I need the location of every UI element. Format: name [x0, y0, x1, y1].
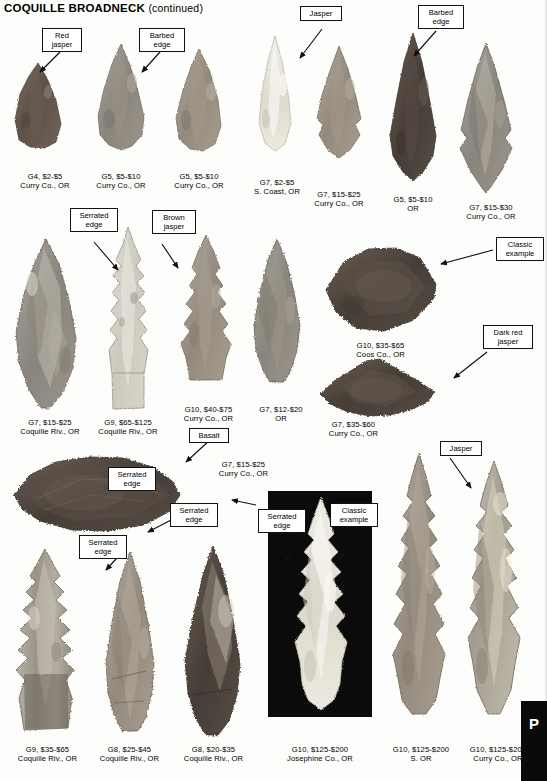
caption-grade-price: G8, $20-$35 [166, 745, 261, 754]
callout-dark-red-jasper: Dark red jasper [483, 325, 533, 349]
callout-serrated-edge-2: Serrated edge [170, 503, 218, 527]
artifact-row1-item7 [455, 42, 517, 195]
callout-line: edge [422, 17, 460, 26]
callout-classic-example-2: Classic example [330, 503, 378, 527]
callout-line: Serrated [112, 470, 152, 479]
callout-line: Jasper [444, 444, 478, 453]
caption-grade-price: G5, $5-$10 [76, 172, 166, 181]
caption-row1-item2: G5, $5-$10 Curry Co., OR [76, 172, 166, 190]
caption-provenance: Josephine Co., OR [270, 754, 370, 763]
callout-line: Serrated [262, 512, 302, 521]
caption-grade-price: G7, $35-$60 [306, 420, 401, 429]
callout-line: Barbed [143, 31, 181, 40]
caption-grade-price: G10, $125-$200 [270, 745, 370, 754]
caption-row1-item3: G5, $5-$10 Curry Co., OR [154, 172, 244, 190]
artifact-row2-item2 [100, 226, 156, 413]
page-title: COQUILLE BROADNECK (continued) [4, 2, 203, 14]
callout-serrated-edge-5: Serrated edge [108, 467, 156, 491]
caption-grade-price: G8, $25-$45 [82, 745, 177, 754]
callout-line: Serrated [74, 211, 114, 220]
caption-row4-item2: G8, $25-$45 Coquille Riv., OR [82, 745, 177, 763]
callout-line: Serrated [174, 506, 214, 515]
artifact-row2-item6 [318, 358, 436, 418]
artifact-row4-item5 [388, 452, 450, 718]
callout-line: Dark red [487, 328, 529, 337]
callout-line: Classic [500, 240, 540, 249]
callout-red-jasper: Red jasper [42, 28, 82, 52]
caption-grade-price: G7, $12-$20 [236, 405, 326, 414]
artifact-row1-item6 [385, 32, 441, 184]
caption-row4-item3: G8, $20-$35 Coquille Riv., OR [166, 745, 261, 763]
artifact-row1-item3 [170, 48, 228, 152]
caption-row4-item4: G10, $125-$200 Josephine Co., OR [270, 745, 370, 763]
caption-provenance: Coquille Riv., OR [78, 427, 178, 436]
caption-provenance: Curry Co., OR [196, 469, 291, 478]
callout-classic-example-1: Classic example [496, 237, 544, 261]
caption-provenance: Coquille Riv., OR [166, 754, 261, 763]
caption-grade-price: G7, $2-$5 [232, 178, 322, 187]
page-thumb-tab: P [521, 701, 547, 781]
catalog-page: COQUILLE BROADNECK (continued) [0, 0, 547, 781]
callout-line: Jasper [304, 9, 338, 18]
callout-line: Red [46, 31, 78, 40]
callout-brown-jasper: Brown jasper [152, 210, 196, 234]
callout-line: edge [112, 479, 152, 488]
artifact-row3-item1 [12, 455, 182, 533]
caption-row2-item5: G10, $35-$65 Coos Co., OR [333, 341, 428, 359]
caption-row1-item7: G7, $15-$30 Curry Co., OR [441, 203, 541, 221]
callout-line: edge [143, 40, 181, 49]
caption-row2-item6: G7, $35-$60 Curry Co., OR [306, 420, 401, 438]
callout-barbed-edge-2: Barbed edge [418, 5, 464, 29]
caption-provenance: Coquille Riv., OR [82, 754, 177, 763]
page-title-text: COQUILLE BROADNECK [4, 2, 145, 14]
callout-serrated-edge-1: Serrated edge [70, 208, 118, 232]
artifact-row2-item3 [176, 234, 236, 384]
callout-line: jasper [487, 337, 529, 346]
callout-line: edge [74, 220, 114, 229]
callout-line: edge [83, 547, 123, 556]
caption-grade-price: G5, $5-$10 [154, 172, 244, 181]
callout-serrated-edge-4: Serrated edge [258, 509, 306, 533]
caption-provenance: Curry Co., OR [76, 181, 166, 190]
callout-line: Classic [334, 506, 374, 515]
callout-serrated-edge-3: Serrated edge [79, 535, 127, 559]
callout-jasper-bottom: Jasper [440, 441, 482, 456]
callout-line: Barbed [422, 8, 460, 17]
callout-line: edge [174, 515, 214, 524]
artifact-row1-item4 [254, 35, 296, 153]
caption-grade-price: G7, $15-$25 [196, 460, 291, 469]
artifact-row1-item1 [12, 62, 64, 149]
caption-grade-price: G9, $35-$65 [0, 745, 95, 754]
artifact-row2-item4 [248, 238, 306, 386]
artifact-row1-item5 [312, 45, 366, 160]
thumb-tab-letter: P [529, 715, 539, 732]
caption-provenance: Curry Co., OR [154, 181, 244, 190]
caption-row3-item1: G7, $15-$25 Curry Co., OR [196, 460, 291, 478]
caption-provenance: Coos Co., OR [333, 350, 428, 359]
artifact-row2-item1 [10, 238, 82, 410]
callout-jasper-top: Jasper [300, 6, 342, 21]
caption-provenance: Coquille Riv., OR [0, 754, 95, 763]
callout-basalt: Basalt [189, 428, 229, 443]
caption-grade-price: G7, $15-$30 [441, 203, 541, 212]
caption-provenance: Curry Co., OR [306, 429, 401, 438]
caption-grade-price: G10, $35-$65 [333, 341, 428, 350]
callout-line: Serrated [83, 538, 123, 547]
callout-line: jasper [46, 40, 78, 49]
callout-line: edge [262, 521, 302, 530]
page-title-continued: (continued) [148, 2, 203, 14]
callout-line: Brown [156, 213, 192, 222]
artifact-row4-item2 [100, 551, 160, 737]
artifact-row4-item6 [462, 460, 526, 718]
caption-provenance: Curry Co., OR [441, 212, 541, 221]
artifact-row2-item5 [322, 246, 440, 334]
caption-row4-item1: G9, $35-$65 Coquille Riv., OR [0, 745, 95, 763]
callout-line: example [334, 515, 374, 524]
callout-line: Basalt [193, 431, 225, 440]
callout-barbed-edge-1: Barbed edge [139, 28, 185, 52]
artifact-row1-item2 [92, 43, 150, 151]
artifact-row4-item3 [180, 545, 246, 741]
callout-line: example [500, 249, 540, 258]
callout-line: jasper [156, 222, 192, 231]
artifact-row4-item1 [8, 548, 82, 736]
